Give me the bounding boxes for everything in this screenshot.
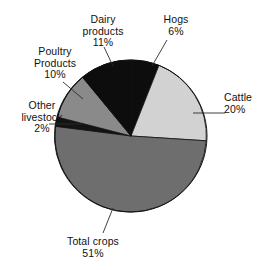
leader-line-hogs xyxy=(152,40,167,66)
pie-chart-canvas xyxy=(0,0,276,270)
leader-line-total-crops xyxy=(103,208,113,233)
pie-label-poultry-products-line1: Poultry xyxy=(24,46,86,58)
pie-chart: Dairy products 11% Hogs 6% Poultry Produ… xyxy=(0,0,276,270)
pie-label-cattle-line1: Cattle xyxy=(224,92,274,104)
pie-label-other-livestock-line1: Other xyxy=(10,100,74,112)
pie-label-total-crops-line1: Total crops xyxy=(52,236,134,248)
pie-label-total-crops: Total crops 51% xyxy=(52,236,134,259)
pie-label-poultry-products: Poultry Products 10% xyxy=(24,46,86,81)
pie-value-poultry-products: 10% xyxy=(24,69,86,81)
pie-label-cattle: Cattle 20% xyxy=(224,92,274,115)
pie-label-dairy-products: Dairy products 11% xyxy=(72,14,134,49)
pie-label-dairy-products-line1: Dairy xyxy=(72,14,134,26)
pie-value-hogs: 6% xyxy=(152,26,200,38)
pie-value-total-crops: 51% xyxy=(52,248,134,260)
pie-label-hogs: Hogs 6% xyxy=(152,14,200,37)
pie-label-hogs-line1: Hogs xyxy=(152,14,200,26)
pie-value-cattle: 20% xyxy=(224,104,274,116)
pie-label-other-livestock: Other livestock 2% xyxy=(10,100,74,135)
pie-value-other-livestock: 2% xyxy=(10,123,74,135)
